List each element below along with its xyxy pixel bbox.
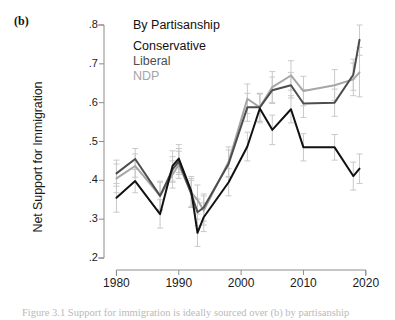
y-tick-label: .5 (72, 135, 98, 147)
y-axis-tick-labels: .2.3.4.5.6.7.8 (70, 25, 98, 258)
series-line-ndp (116, 72, 359, 210)
series-line-liberal (116, 40, 359, 212)
y-tick-label: .3 (72, 212, 98, 224)
y-tick-label: .8 (72, 18, 98, 30)
y-tick-label: .7 (72, 57, 98, 69)
y-axis-title: Net Support for Immigration (31, 57, 45, 257)
figure-caption: Figure 3.1 Support for immigration is id… (22, 307, 390, 318)
y-tick-label: .4 (72, 173, 98, 185)
panel-letter: (b) (14, 14, 29, 29)
y-tick-label: .2 (72, 251, 98, 263)
plot-area (104, 25, 372, 258)
y-tick-label: .6 (72, 96, 98, 108)
figure-panel-b: (b) Net Support for Immigration .2.3.4.5… (0, 0, 395, 320)
series-lines (104, 25, 372, 258)
